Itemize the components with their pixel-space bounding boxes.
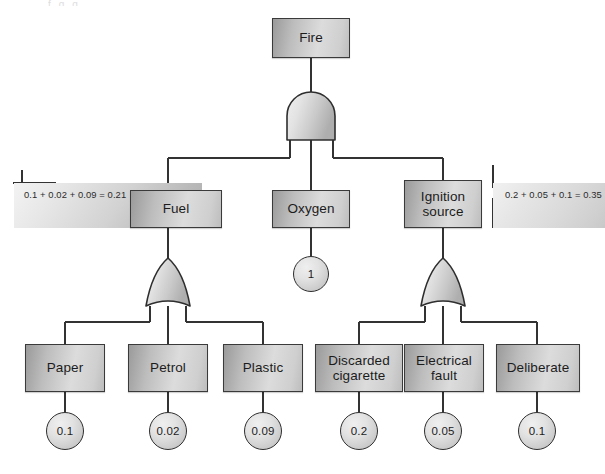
node-fire[interactable]: Fire: [272, 18, 350, 58]
node-fuel[interactable]: Fuel: [130, 190, 222, 228]
ignition-probability-annotation-text: 0.2 + 0.05 + 0.1 = 0.35: [505, 189, 602, 200]
node-electrical-fault-label: Electrical fault: [413, 353, 475, 383]
probability-deliberate[interactable]: 0.1: [518, 412, 556, 450]
ignition-probability-annotation: 0.2 + 0.05 + 0.1 = 0.35: [493, 183, 605, 228]
connector-lines: [0, 0, 605, 474]
probability-discarded-cigarette[interactable]: 0.2: [340, 412, 378, 450]
node-plastic-label: Plastic: [240, 360, 286, 375]
node-petrol-label: Petrol: [147, 360, 189, 375]
fuel-probability-annotation-text: 0.1 + 0.02 + 0.09 = 0.21: [24, 189, 126, 200]
node-electrical-fault[interactable]: Electrical fault: [404, 344, 484, 392]
node-ignition-source[interactable]: Ignition source: [404, 180, 482, 228]
node-paper[interactable]: Paper: [25, 344, 105, 392]
probability-petrol-value: 0.02: [157, 425, 180, 437]
node-paper-label: Paper: [44, 360, 87, 375]
probability-oxygen-value: 1: [308, 268, 315, 280]
probability-electrical-fault-value: 0.05: [432, 425, 455, 437]
node-petrol[interactable]: Petrol: [128, 344, 208, 392]
node-fire-label: Fire: [296, 30, 326, 45]
node-oxygen[interactable]: Oxygen: [272, 190, 350, 228]
or-gate-fuel-glyph: [146, 258, 190, 306]
and-gate-top-glyph: [287, 92, 335, 140]
probability-deliberate-value: 0.1: [529, 425, 545, 437]
probability-paper-value: 0.1: [57, 425, 73, 437]
probability-plastic[interactable]: 0.09: [244, 412, 282, 450]
node-deliberate[interactable]: Deliberate: [496, 344, 580, 392]
or-gate-ignition-glyph: [421, 258, 465, 306]
node-deliberate-label: Deliberate: [504, 360, 573, 375]
probability-plastic-value: 0.09: [252, 425, 275, 437]
node-oxygen-label: Oxygen: [284, 201, 337, 216]
node-discarded-cigarette[interactable]: Discarded cigarette: [315, 344, 403, 392]
probability-oxygen[interactable]: 1: [293, 256, 329, 292]
probability-petrol[interactable]: 0.02: [149, 412, 187, 450]
fault-tree-diagram: f g g: [0, 0, 605, 474]
node-fuel-label: Fuel: [160, 201, 193, 216]
node-discarded-cigarette-label: Discarded cigarette: [325, 353, 393, 383]
probability-electrical-fault[interactable]: 0.05: [424, 412, 462, 450]
probability-discarded-cigarette-value: 0.2: [351, 425, 367, 437]
probability-paper[interactable]: 0.1: [46, 412, 84, 450]
node-plastic[interactable]: Plastic: [223, 344, 303, 392]
node-ignition-source-label: Ignition source: [418, 189, 468, 219]
